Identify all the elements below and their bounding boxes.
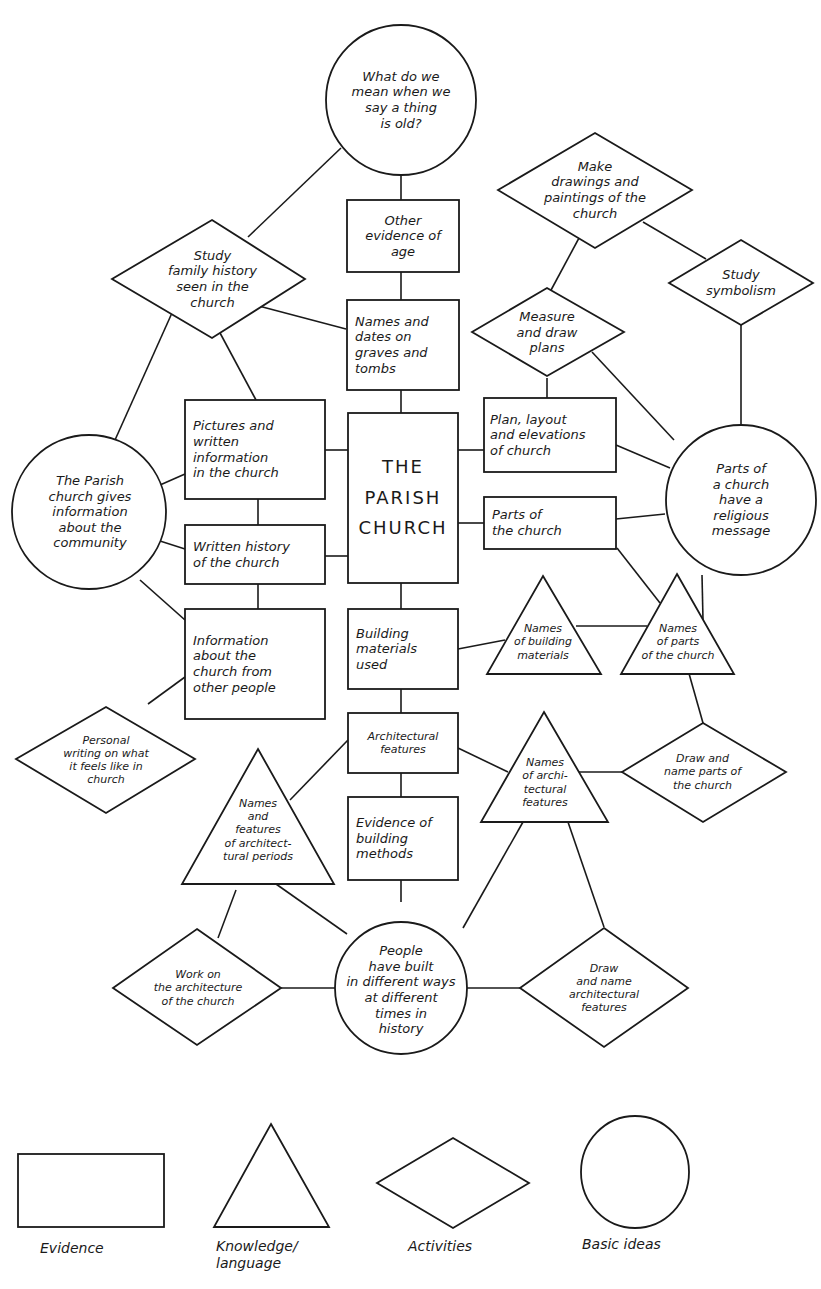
label-work-architecture: Work on the architecture of the church <box>128 958 268 1018</box>
label-study-symbolism: Study symbolism <box>680 258 802 308</box>
legend-label-evidence: Evidence <box>40 1240 104 1257</box>
legend-rectangle-icon <box>18 1154 164 1227</box>
label-written-history: Written history of the church <box>193 525 325 584</box>
label-names-dates: Names and dates on graves and tombs <box>355 300 459 390</box>
label-draw-name-arch: Draw and name architectural features <box>540 950 668 1026</box>
legend-label-activities: Activities <box>408 1238 472 1255</box>
label-info-other-people: Information about the church from other … <box>193 609 325 719</box>
label-names-arch-features: Names of archi- tectural features <box>500 745 590 820</box>
label-pictures-written: Pictures and written information in the … <box>193 400 325 499</box>
label-parts-religious: Parts of a church have a religious messa… <box>676 435 806 565</box>
label-measure-plans: Measure and draw plans <box>492 305 602 360</box>
legend-diamond-icon <box>377 1138 529 1228</box>
label-make-drawings: Make drawings and paintings of the churc… <box>525 145 665 235</box>
label-study-family: Study family history seen in the church <box>140 235 285 323</box>
center-title: THE PARISH CHURCH <box>348 413 458 583</box>
legend <box>18 1116 689 1228</box>
label-other-evidence: Other evidence of age <box>347 200 459 272</box>
label-draw-name-parts: Draw and name parts of the church <box>640 740 765 804</box>
legend-label-knowledge: Knowledge/ language <box>216 1238 298 1272</box>
label-evidence-methods: Evidence of building methods <box>356 797 458 880</box>
legend-circle-icon <box>581 1116 689 1228</box>
label-parish-gives-info: The Parish church gives information abou… <box>20 452 160 572</box>
legend-label-basic-ideas: Basic ideas <box>582 1236 661 1253</box>
label-what-old: What do we mean when we say a thing is o… <box>336 40 466 160</box>
label-personal-writing: Personal writing on what it feels like i… <box>36 725 176 795</box>
label-names-parts: Names of parts of the church <box>630 612 726 672</box>
label-names-building-materials: Names of building materials <box>500 612 586 672</box>
label-names-periods: Names and features of architect- tural p… <box>195 780 321 880</box>
label-architectural-features: Architectural features <box>348 713 458 773</box>
label-people-built: People have built in different ways at d… <box>335 925 467 1055</box>
label-building-materials: Building materials used <box>356 609 458 689</box>
label-parts-church: Parts of the church <box>492 497 616 549</box>
legend-triangle-icon <box>214 1124 329 1227</box>
label-plan-layout: Plan, layout and elevations of church <box>490 398 616 472</box>
